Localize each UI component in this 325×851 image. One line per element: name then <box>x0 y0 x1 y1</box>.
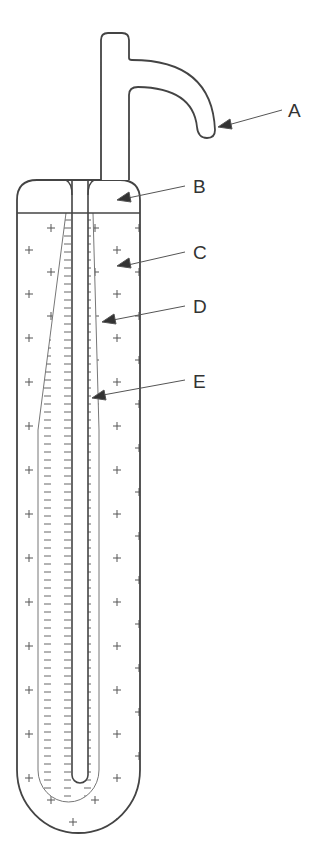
center-channel <box>72 180 88 783</box>
label-d: D <box>193 297 207 316</box>
apparatus-diagram <box>0 0 325 851</box>
label-e: E <box>193 372 206 391</box>
outlet-tube <box>101 33 215 180</box>
label-c: C <box>193 243 207 262</box>
label-a: A <box>288 101 301 120</box>
label-b: B <box>193 177 206 196</box>
